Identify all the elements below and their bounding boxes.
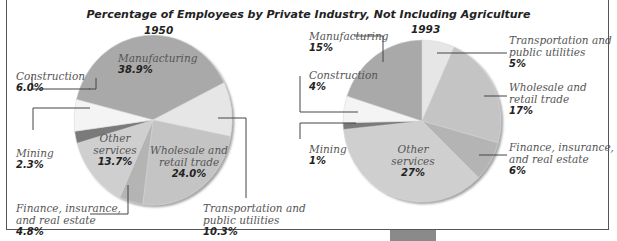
label-transport-1993: Transportation and public utilities 5%	[509, 34, 612, 70]
label-transport-1950: Transportation and public utilities 10.3…	[203, 202, 306, 238]
label-construction-1950: Construction 6.0%	[16, 70, 85, 94]
label-other-services-1950: Other services 13.7%	[88, 132, 142, 168]
bottom-tab-decoration	[390, 230, 436, 241]
year-1993: 1993	[411, 23, 440, 35]
label-finance-1993: Finance, insurance, and real estate 6%	[509, 141, 614, 177]
year-1950: 1950	[144, 24, 173, 36]
label-construction-1993: Construction 4%	[309, 69, 378, 93]
label-manufacturing-1993: Manufacturing 15%	[309, 30, 388, 54]
label-wholesale-1950: Wholesale and retail trade 24.0%	[146, 144, 232, 180]
label-manufacturing-1950: Manufacturing 38.9%	[118, 52, 197, 76]
label-mining-1993: Mining 1%	[309, 143, 347, 167]
label-mining-1950: Mining 2.3%	[16, 147, 54, 171]
label-finance-1950: Finance, insurance, and real estate 4.8%	[16, 202, 121, 238]
label-other-services-1993: Other services 27%	[383, 143, 443, 179]
label-wholesale-1993: Wholesale and retail trade 17%	[509, 81, 587, 117]
